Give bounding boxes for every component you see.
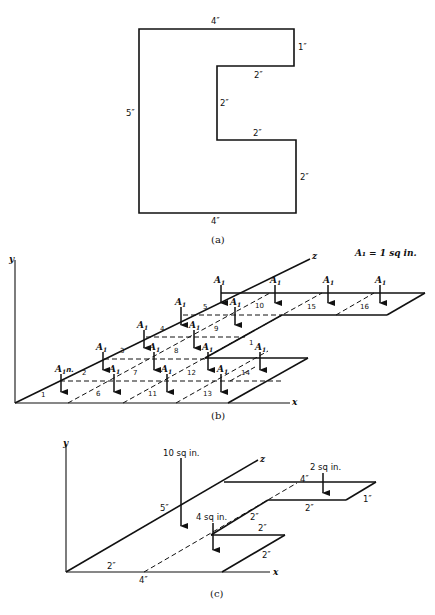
svg-text:3: 3 (120, 347, 124, 355)
svg-text:13: 13 (203, 390, 212, 398)
dim-a-notch-bottom: 2″ (253, 128, 262, 138)
svg-text:A1: A1 (174, 297, 186, 308)
dim-c-x-2: 2″ (107, 561, 116, 571)
dim-c-mid-diag-2: 2″ (250, 512, 259, 522)
svg-text:14: 14 (241, 369, 250, 377)
svg-text:8: 8 (174, 347, 178, 355)
load-c-2: 2 sq in. (310, 462, 341, 472)
svg-text:1: 1 (249, 339, 253, 347)
figure-c-dashed (144, 483, 297, 572)
svg-text:A1: A1 (229, 297, 241, 308)
svg-text:5: 5 (203, 303, 207, 311)
dim-a-bottom: 4″ (211, 216, 220, 226)
dim-c-mid-slant-2: 2″ (262, 550, 271, 560)
svg-text:1: 1 (41, 391, 45, 399)
dim-c-mid-top-2: 2″ (258, 523, 267, 533)
svg-text:A1: A1 (254, 342, 266, 353)
svg-text:11: 11 (148, 390, 157, 398)
svg-text:A1: A1 (95, 342, 107, 353)
dim-c-top-1: 1″ (363, 494, 372, 504)
svg-text:12: 12 (187, 369, 196, 377)
svg-text:15: 15 (307, 303, 316, 311)
svg-text:7: 7 (133, 369, 137, 377)
axis-b-y: y (8, 254, 15, 264)
load-c-4: 4 sq in. (196, 512, 227, 522)
svg-text:A1: A1 (136, 320, 148, 331)
caption-a: (a) (211, 234, 225, 245)
figure-c-loads (181, 458, 323, 550)
legend-b: A₁ = 1 sq in. (354, 248, 417, 258)
axis-b-x: x (291, 397, 298, 407)
svg-text:A1: A1 (213, 275, 225, 286)
svg-text:A1n.: A1n. (54, 364, 74, 375)
svg-text:A1: A1 (269, 275, 281, 286)
figure-canvas: 4″ 1″ 2″ 2″ 2″ 2″ 5″ 4″ (a) y x z (0, 0, 435, 615)
svg-text:2: 2 (82, 369, 86, 377)
axis-c-y: y (62, 438, 69, 448)
dim-c-diag-5: 5″ (160, 503, 169, 513)
dim-a-right-bottom: 2″ (300, 172, 309, 182)
load-c-10: 10 sq in. (163, 448, 200, 458)
axis-b-z: z (311, 251, 318, 261)
dim-a-right-top: 1″ (298, 42, 307, 52)
caption-c: (c) (210, 588, 224, 599)
dim-c-x-4: 4″ (139, 575, 148, 585)
dim-a-left: 5″ (126, 108, 135, 118)
figure-b-loads (61, 285, 380, 392)
svg-text:A1: A1 (188, 320, 200, 331)
dim-c-top-2: 2″ (305, 503, 314, 513)
dim-a-top: 4″ (211, 16, 220, 26)
svg-text:16: 16 (360, 303, 369, 311)
axis-c-z: z (259, 454, 266, 464)
dim-c-top-4: 4″ (300, 474, 309, 484)
dim-a-notch-inner: 2″ (220, 98, 229, 108)
svg-text:A1: A1 (160, 364, 172, 375)
axis-c-x: x (272, 567, 279, 577)
svg-text:A1: A1 (108, 364, 120, 375)
figure-a-c-shape (139, 29, 296, 213)
svg-text:A1: A1 (322, 275, 334, 286)
svg-text:A1: A1 (201, 342, 213, 353)
svg-text:10: 10 (255, 302, 264, 310)
svg-text:A1: A1 (216, 364, 228, 375)
caption-b: (b) (211, 410, 225, 421)
svg-text:A1: A1 (374, 275, 386, 286)
svg-text:6: 6 (96, 390, 101, 398)
figure-b-axes (15, 260, 290, 403)
dim-a-notch-top: 2″ (254, 70, 263, 80)
svg-text:9: 9 (214, 325, 218, 333)
svg-text:4: 4 (160, 325, 165, 333)
svg-text:A1: A1 (148, 342, 160, 353)
